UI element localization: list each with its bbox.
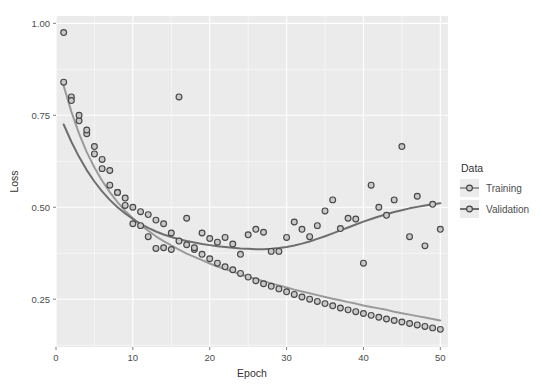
data-point-validation (399, 144, 405, 150)
x-tick-label: 0 (53, 352, 58, 363)
y-tick-label: 1.00 (32, 18, 51, 29)
y-tick-label: 0.25 (32, 294, 51, 305)
data-point-validation (199, 230, 205, 236)
legend-item-label: Validation (486, 204, 529, 215)
data-point-training (314, 299, 320, 305)
loss-vs-epoch-chart: 0.250.500.751.00 01020304050 Epoch Loss … (0, 0, 542, 391)
data-point-training (430, 325, 436, 331)
data-point-training (161, 221, 167, 227)
data-point-validation (122, 203, 128, 209)
data-point-validation (161, 245, 167, 251)
data-point-validation (299, 226, 305, 232)
x-axis-title: Epoch (237, 367, 267, 379)
data-point-training (245, 274, 251, 280)
data-point-validation (330, 197, 336, 203)
data-point-validation (414, 193, 420, 199)
data-point-training (391, 318, 397, 324)
data-point-validation (437, 226, 443, 232)
data-point-training (261, 281, 267, 287)
x-tick-label: 10 (128, 352, 139, 363)
data-point-validation (99, 157, 105, 163)
data-point-training (330, 303, 336, 309)
data-point-validation (207, 236, 213, 242)
data-point-training (422, 324, 428, 330)
data-point-validation (130, 221, 136, 227)
data-point-validation (92, 144, 98, 150)
plot-panel-background (56, 16, 448, 347)
y-tick-label: 0.75 (32, 110, 51, 121)
data-point-validation (268, 248, 274, 254)
data-point-training (307, 296, 313, 302)
data-point-validation (384, 212, 390, 218)
data-point-training (130, 204, 136, 210)
data-point-training (122, 195, 128, 201)
data-point-training (176, 238, 182, 244)
data-point-validation (107, 182, 113, 188)
data-point-validation (284, 235, 290, 241)
x-tick-label: 50 (435, 352, 446, 363)
legend-title: Data (461, 162, 483, 174)
x-tick-label: 30 (281, 352, 292, 363)
data-point-validation (353, 216, 359, 222)
data-point-training (238, 271, 244, 277)
data-point-validation (322, 208, 328, 214)
y-tick-label: 0.50 (32, 202, 51, 213)
y-axis-title: Loss (8, 170, 20, 192)
data-point-training (222, 264, 228, 270)
data-point-training (76, 118, 82, 124)
data-point-validation (115, 190, 121, 196)
data-point-validation (430, 201, 436, 207)
data-point-training (230, 267, 236, 273)
data-point-validation (245, 232, 251, 238)
data-point-training (322, 301, 328, 307)
data-point-training (337, 305, 343, 311)
data-point-validation (276, 248, 282, 254)
data-point-training (61, 30, 67, 36)
data-point-validation (391, 197, 397, 203)
data-point-training (284, 289, 290, 295)
data-point-validation (361, 260, 367, 266)
data-point-validation (76, 112, 82, 118)
data-point-validation (422, 243, 428, 249)
data-point-training (353, 309, 359, 315)
data-point-training (92, 151, 98, 157)
data-point-validation (291, 219, 297, 225)
data-point-validation (407, 234, 413, 240)
data-point-training (376, 314, 382, 320)
data-point-training (384, 316, 390, 322)
data-point-training (145, 212, 151, 218)
legend-key-point (467, 206, 473, 212)
data-point-validation (68, 98, 74, 104)
data-point-validation (368, 182, 374, 188)
data-point-training (407, 321, 413, 327)
data-point-validation (253, 226, 259, 232)
data-point-training (345, 307, 351, 313)
data-point-validation (238, 251, 244, 257)
data-point-validation (145, 234, 151, 240)
data-point-training (168, 230, 174, 236)
data-point-validation (61, 79, 67, 85)
data-point-validation (176, 94, 182, 100)
data-point-training (253, 278, 259, 284)
data-point-validation (261, 229, 267, 235)
data-point-validation (191, 245, 197, 251)
data-point-training (399, 319, 405, 325)
chart-root: 0.250.500.751.00 01020304050 Epoch Loss … (0, 0, 542, 391)
data-point-training (184, 242, 190, 248)
data-point-training (437, 326, 443, 332)
data-point-validation (222, 235, 228, 241)
data-point-validation (168, 247, 174, 253)
x-tick-label: 40 (358, 352, 369, 363)
data-point-training (368, 312, 374, 318)
data-point-validation (376, 204, 382, 210)
data-point-validation (138, 223, 144, 229)
data-point-training (299, 294, 305, 300)
data-point-training (268, 283, 274, 289)
data-point-validation (314, 223, 320, 229)
data-point-training (361, 311, 367, 317)
data-point-validation (153, 246, 159, 252)
data-point-training (291, 292, 297, 298)
data-point-validation (230, 241, 236, 247)
data-point-training (199, 251, 205, 257)
data-point-training (276, 286, 282, 292)
